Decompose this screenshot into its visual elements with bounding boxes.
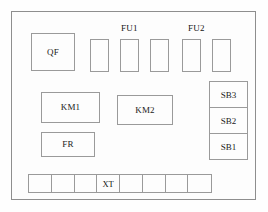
terminal-cell [29,175,52,192]
terminal-cell [75,175,98,192]
component-km1-label: KM1 [61,103,81,112]
fuse-group-label-fu2: FU2 [188,23,205,33]
push-button-stack: SB3 SB2 SB1 [209,81,248,160]
component-sb3: SB3 [210,82,247,108]
component-sb2-label: SB2 [221,116,237,126]
component-km2: KM2 [117,95,173,125]
fuse-block [182,39,201,72]
component-sb1: SB1 [210,134,247,159]
fuse-block [212,39,231,72]
component-km1: KM1 [41,92,100,123]
terminal-strip-label: XT [102,179,113,189]
terminal-cell [188,175,211,192]
terminal-cell-xt: XT [97,175,120,192]
fuse-block [120,39,139,72]
fuse-block [150,39,169,72]
component-km2-label: KM2 [135,106,155,115]
terminal-strip-xt: XT [28,174,212,193]
terminal-cell [52,175,75,192]
component-qf: QF [31,33,75,71]
component-sb1-label: SB1 [221,142,237,152]
component-qf-label: QF [47,48,59,57]
component-fr-label: FR [62,140,73,149]
control-panel-layout-diagram: QF FU1 FU2 KM1 KM2 FR SB3 SB2 SB1 XT [0,0,268,212]
component-fr: FR [41,132,95,157]
terminal-cell [120,175,143,192]
fuse-block [90,39,109,72]
fuse-group-label-fu1: FU1 [121,23,138,33]
terminal-cell [143,175,166,192]
component-sb3-label: SB3 [221,90,237,100]
terminal-cell [166,175,189,192]
component-sb2: SB2 [210,108,247,134]
